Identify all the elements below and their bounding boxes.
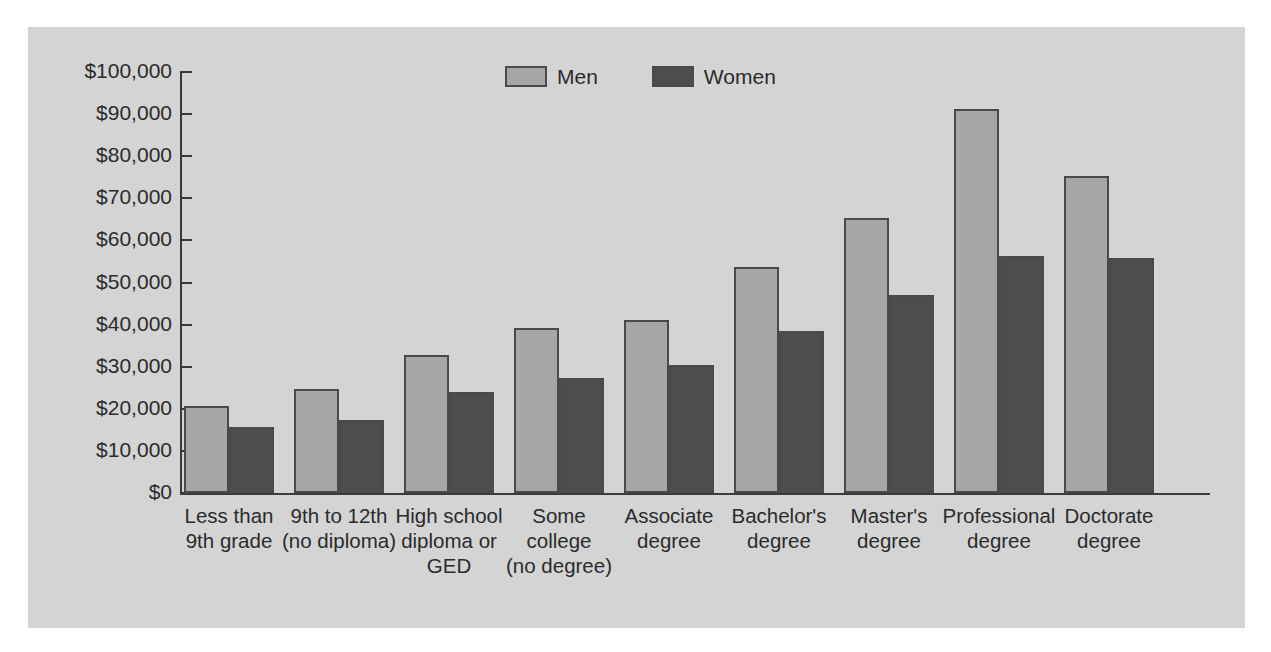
legend-label-men: Men bbox=[557, 66, 598, 87]
bar-men bbox=[734, 267, 779, 493]
bar-women bbox=[999, 256, 1044, 493]
bar-women bbox=[339, 420, 384, 493]
x-axis-line bbox=[180, 493, 1210, 495]
bar-women bbox=[669, 365, 714, 493]
chart-legend: Men Women bbox=[505, 66, 776, 87]
legend-swatch-women-icon bbox=[652, 66, 694, 87]
legend-swatch-men-icon bbox=[505, 66, 547, 87]
x-axis-category-label: High school diploma or GED bbox=[392, 503, 506, 578]
legend-entry-women: Women bbox=[652, 66, 776, 87]
bar-women bbox=[779, 331, 824, 493]
bar-women bbox=[889, 295, 934, 493]
bar-men bbox=[844, 218, 889, 493]
bar-men bbox=[1064, 176, 1109, 493]
bar-men bbox=[294, 389, 339, 493]
x-axis-category-label: Less than 9th grade bbox=[172, 503, 286, 553]
plot-area: $0$10,000$20,000$30,000$40,000$50,000$60… bbox=[0, 0, 1271, 652]
bar-men bbox=[404, 355, 449, 493]
bar-men bbox=[624, 320, 669, 493]
x-axis-category-label: 9th to 12th (no diploma) bbox=[282, 503, 396, 553]
legend-label-women: Women bbox=[704, 66, 776, 87]
x-axis-category-label: Professional degree bbox=[942, 503, 1056, 553]
bar-men bbox=[184, 406, 229, 493]
x-axis-category-label: Associate degree bbox=[612, 503, 726, 553]
chart-figure: $0$10,000$20,000$30,000$40,000$50,000$60… bbox=[0, 0, 1271, 652]
x-axis-category-label: Master's degree bbox=[832, 503, 946, 553]
x-axis-category-label: Doctorate degree bbox=[1052, 503, 1166, 553]
bar-men bbox=[954, 109, 999, 493]
legend-entry-men: Men bbox=[505, 66, 598, 87]
x-axis-category-label: Bachelor's degree bbox=[722, 503, 836, 553]
bar-women bbox=[229, 427, 274, 493]
bar-women bbox=[1109, 258, 1154, 493]
bar-men bbox=[514, 328, 559, 493]
x-axis-category-label: Some college (no degree) bbox=[502, 503, 616, 578]
bar-women bbox=[449, 392, 494, 493]
bar-women bbox=[559, 378, 604, 493]
